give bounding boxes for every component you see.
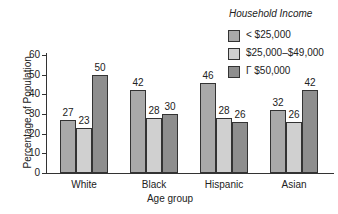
bar — [286, 122, 302, 173]
bar — [146, 118, 162, 173]
legend-swatch — [228, 48, 240, 60]
x-axis-label: Age group — [130, 193, 210, 204]
bar-value-label: 26 — [230, 109, 250, 120]
bar — [92, 75, 108, 173]
bar-value-label: 32 — [268, 97, 288, 108]
bar — [302, 90, 318, 173]
legend-swatch — [228, 66, 240, 78]
x-category-label: Black — [124, 179, 184, 190]
x-category-label: White — [54, 179, 114, 190]
y-tick-label: 30 — [20, 108, 40, 119]
y-tick — [42, 173, 47, 174]
legend-label: < $25,000 — [246, 29, 291, 40]
bar-value-label: 42 — [300, 77, 320, 88]
bar — [60, 120, 76, 173]
bar — [216, 118, 232, 173]
bar-value-label: 42 — [128, 77, 148, 88]
bar-value-label: 50 — [90, 62, 110, 73]
y-tick-label: 10 — [20, 147, 40, 158]
legend-swatch — [228, 30, 240, 42]
bar — [162, 114, 178, 173]
y-tick — [42, 75, 47, 76]
bar-value-label: 23 — [74, 115, 94, 126]
x-category-label: Hispanic — [194, 179, 254, 190]
legend-label: Γ $50,000 — [246, 65, 290, 76]
y-tick-label: 50 — [20, 69, 40, 80]
bar — [76, 128, 92, 173]
bar — [130, 90, 146, 173]
x-axis-line — [46, 173, 334, 174]
y-tick-label: 40 — [20, 88, 40, 99]
bar — [200, 83, 216, 173]
y-tick — [42, 94, 47, 95]
y-tick — [42, 134, 47, 135]
bar-value-label: 26 — [284, 109, 304, 120]
legend-label: $25,000–$49,000 — [246, 47, 324, 58]
bar-value-label: 30 — [160, 101, 180, 112]
y-tick — [42, 153, 47, 154]
y-tick — [42, 55, 47, 56]
y-tick-label: 60 — [20, 49, 40, 60]
x-category-label: Asian — [264, 179, 324, 190]
y-tick — [42, 114, 47, 115]
y-tick-label: 20 — [20, 128, 40, 139]
bar-value-label: 46 — [198, 70, 218, 81]
legend-title: Household Income — [229, 8, 312, 19]
y-tick-label: 0 — [20, 167, 40, 178]
bar — [232, 122, 248, 173]
